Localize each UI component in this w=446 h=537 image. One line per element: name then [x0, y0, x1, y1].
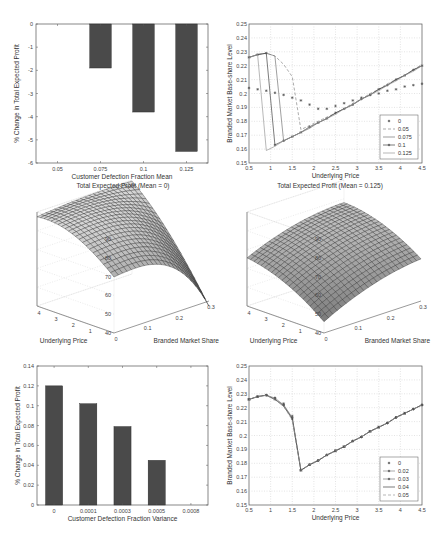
x-tick-label: 3.5 [375, 165, 383, 171]
legend-entry: 0.05 [398, 492, 409, 498]
x-tick-label: 1.5 [288, 165, 296, 171]
x-tick-label: 2 [312, 165, 315, 171]
y-tick-label: 0.22 [236, 405, 247, 411]
z-tick-label: 80 [105, 255, 111, 261]
x-tick-label: 0.075 [94, 166, 108, 172]
legend-entry: 0.1 [398, 142, 406, 148]
x-tick-label: 0.3 [207, 304, 215, 310]
y-tick-label: 3 [55, 316, 58, 322]
y-tick-label: 0.16 [236, 146, 247, 152]
y-tick-label: 0.23 [236, 49, 247, 55]
bar [133, 24, 155, 112]
x-tick-label: 1.5 [288, 507, 296, 513]
y-tick-label: 3 [265, 316, 268, 322]
y-tick-label: 0.12 [23, 383, 34, 389]
y-tick-label: 0.15 [236, 502, 247, 508]
x-tick-label: 1 [269, 507, 272, 513]
x-tick-label: 2.5 [332, 165, 340, 171]
x-tick-label: 4 [399, 165, 402, 171]
line-chart-mean: 0.511.522.533.544.50.150.160.170.180.190… [226, 21, 426, 180]
y-axis-label: Branded Market Base-share Level [226, 44, 233, 143]
y-tick-label: 0.25 [236, 363, 247, 369]
z-tick-label: 40 [105, 330, 111, 336]
x-tick-label: 0.1 [140, 166, 148, 172]
chart-title: Total Expected Profit (Mean = 0) [76, 182, 169, 190]
legend-entry: 0.125 [398, 150, 412, 156]
x-tick-label: 0.05 [52, 166, 63, 172]
y-tick-label: 2 [72, 322, 75, 328]
x-axis-label: Branded Market Share [154, 337, 220, 344]
y-tick-label: -1 [28, 44, 33, 50]
y-tick-label: 0.02 [23, 482, 34, 488]
y-tick-label: 0.24 [236, 377, 247, 383]
y-tick-label: -2 [28, 67, 33, 73]
y-tick-label: 1 [89, 328, 92, 334]
y-tick-label: -3 [28, 91, 33, 97]
y-tick-label: 4 [247, 310, 250, 316]
x-axis-label: Customer Defection Fraction Variance [68, 515, 178, 522]
y-tick-label: -5 [28, 137, 33, 143]
y-tick-label: 0 [30, 21, 33, 27]
y-tick-label: 0.21 [236, 419, 247, 425]
surface-mesh [37, 181, 209, 306]
y-axis-label: % Change in Total Expected Profit [13, 44, 21, 143]
legend-entry: 0.02 [398, 468, 409, 474]
y-tick-label: -4 [28, 114, 33, 120]
y-tick-label: 0.25 [236, 21, 247, 27]
figure: 0-1-2-3-4-5-60.050.0750.10.125Customer D… [0, 0, 446, 537]
line-chart-variance: 0.511.522.533.544.50.150.160.170.180.190… [226, 363, 426, 522]
x-tick-label: 0 [114, 336, 117, 342]
x-tick-label: 0.1 [355, 325, 363, 331]
y-tick-label: 0.17 [236, 132, 247, 138]
x-tick-label: 3.5 [375, 507, 383, 513]
y-tick-label: 0.2 [239, 433, 247, 439]
x-axis-label: Underlying Price [312, 514, 360, 522]
chart-title: Total Expected Profit (Mean = 0.125) [277, 182, 383, 190]
y-tick-label: 0.08 [23, 423, 34, 429]
x-tick-label: 2.5 [332, 507, 340, 513]
x-tick-label: 4.5 [418, 165, 426, 171]
y-tick-label: 4 [37, 310, 40, 316]
y-tick-label: 0.16 [236, 488, 247, 494]
x-tick-label: 0.0003 [114, 508, 131, 514]
x-tick-label: 1 [269, 165, 272, 171]
y-axis-label: Underlying Price [40, 337, 88, 345]
x-tick-label: 4 [399, 507, 402, 513]
y-tick-label: 0.19 [236, 446, 247, 452]
y-tick-label: 0.06 [23, 442, 34, 448]
y-tick-label: 0.18 [236, 118, 247, 124]
bar [176, 24, 198, 151]
x-tick-label: 0.0001 [80, 508, 97, 514]
y-tick-label: 0.14 [23, 363, 34, 369]
bar [114, 427, 131, 505]
y-tick-label: 0.23 [236, 391, 247, 397]
x-tick-label: 0 [324, 336, 327, 342]
z-tick-label: 40 [315, 330, 321, 336]
y-tick-label: 0.15 [236, 160, 247, 166]
z-tick-label: 90 [105, 236, 111, 242]
x-axis-label: Customer Defection Fraction Mean [72, 173, 173, 180]
y-tick-label: 0.2 [239, 91, 247, 97]
y-tick-label: 0.18 [236, 460, 247, 466]
legend-entry: 0.03 [398, 476, 409, 482]
z-tick-label: 60 [315, 292, 321, 298]
surface-plot-mean-0125: 40506070809000.10.20.31234Branded Market… [247, 180, 430, 345]
x-tick-label: 0 [53, 508, 56, 514]
legend: 00.050.0750.10.125 [380, 115, 418, 159]
y-tick-label: 1 [299, 328, 302, 334]
y-tick-label: 0.24 [236, 35, 247, 41]
x-tick-label: 0.0008 [182, 508, 199, 514]
surface-plot-mean-0: 40506070809000.10.20.31234Branded Market… [37, 180, 219, 345]
legend-entry: 0.05 [398, 126, 409, 132]
legend-entry: 0.04 [398, 484, 409, 490]
y-tick-label: 0.04 [23, 462, 34, 468]
y-axis-label: Underlying Price [250, 337, 298, 345]
bar [80, 404, 97, 505]
bar [90, 24, 112, 68]
y-tick-label: 0.19 [236, 104, 247, 110]
y-tick-label: 0.21 [236, 77, 247, 83]
y-tick-label: 0.17 [236, 474, 247, 480]
bar-chart-variance: 00.020.040.060.080.10.120.1400.00010.000… [14, 363, 208, 522]
y-tick-label: 0.22 [236, 63, 247, 69]
x-axis-label: Branded Market Share [365, 337, 431, 344]
